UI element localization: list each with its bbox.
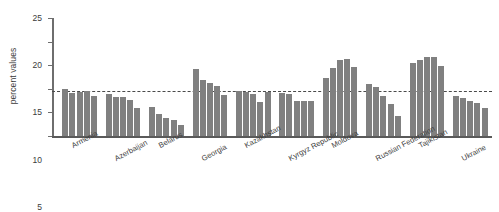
y-axis-tick-label: 25: [33, 13, 42, 23]
y-axis-tick: 5: [48, 112, 52, 113]
bar: [467, 101, 473, 136]
bar: [214, 86, 220, 136]
bar-group: [279, 18, 314, 136]
bar: [207, 83, 213, 136]
bar: [106, 94, 112, 136]
y-axis-tick-label: 20: [33, 60, 42, 70]
bar: [250, 94, 256, 136]
bar: [482, 108, 488, 136]
bar: [337, 60, 343, 136]
bar: [294, 101, 300, 136]
bar: [417, 60, 423, 136]
bar: [163, 118, 169, 136]
bar: [308, 101, 314, 136]
bar-group: [62, 18, 97, 136]
bar: [236, 91, 242, 136]
bar-group: [193, 18, 228, 136]
bar-group: [366, 18, 401, 136]
bar-group: [236, 18, 271, 136]
bar: [474, 103, 480, 136]
y-axis-tick-label: 5: [37, 202, 42, 212]
bar: [156, 114, 162, 136]
bar: [344, 59, 350, 136]
bar: [200, 80, 206, 136]
bar: [134, 108, 140, 136]
bar: [388, 104, 394, 136]
bar: [460, 98, 466, 136]
y-axis-tick: 10: [48, 89, 52, 90]
bar: [438, 66, 444, 136]
plot-area: 0510152025: [52, 18, 492, 136]
bar: [113, 97, 119, 136]
bar: [453, 96, 459, 136]
bar: [380, 96, 386, 136]
bar: [373, 87, 379, 136]
bar: [62, 89, 68, 136]
bar: [330, 68, 336, 136]
chart-page: percent values 0510152025 ArmeniaAzerbai…: [0, 0, 499, 212]
bar: [149, 107, 155, 136]
x-axis-category-label: Azerbaijan: [113, 138, 149, 163]
x-axis-category-label: Georgia: [200, 142, 228, 163]
bar: [193, 69, 199, 136]
bar: [84, 91, 90, 136]
bar: [69, 93, 75, 136]
bar-group: [453, 18, 488, 136]
bar: [323, 78, 329, 136]
bar-group: [323, 18, 358, 136]
y-axis-tick-label: 15: [33, 107, 42, 117]
bar: [243, 92, 249, 136]
bar: [395, 116, 401, 136]
bar: [127, 100, 133, 136]
bar-group: [106, 18, 141, 136]
bar: [301, 101, 307, 136]
bar-group: [149, 18, 184, 136]
y-axis-title: percent values: [2, 20, 24, 132]
bar: [221, 95, 227, 136]
bar: [286, 94, 292, 136]
y-axis-title-text: percent values: [8, 48, 18, 105]
bar: [424, 57, 430, 136]
y-axis-tick: 20: [48, 42, 52, 43]
bar: [351, 67, 357, 136]
y-axis-line: [52, 18, 54, 136]
bar: [77, 92, 83, 136]
y-axis-tick: 25: [48, 18, 52, 19]
bar: [410, 63, 416, 136]
bar: [366, 84, 372, 136]
x-axis-category-label: Ukraine: [460, 143, 487, 163]
bar: [120, 97, 126, 136]
y-axis-tick: 0: [48, 136, 52, 137]
bar-group: [410, 18, 445, 136]
y-axis-tick-label: 10: [33, 155, 42, 165]
y-axis-tick: 15: [48, 65, 52, 66]
